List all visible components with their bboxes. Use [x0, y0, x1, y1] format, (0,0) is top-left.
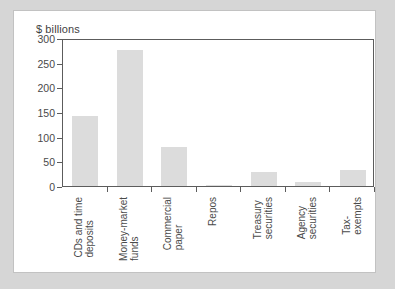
- x-axis-category-label: Tax- exempts: [341, 197, 363, 235]
- bar: [72, 116, 98, 186]
- x-axis-category-label: Agency securities: [296, 197, 318, 239]
- bar: [117, 50, 143, 186]
- x-axis-category-label: Treasury securities: [252, 197, 274, 239]
- bars-container: [63, 40, 373, 186]
- x-axis-category-label: Commercial paper: [162, 197, 184, 250]
- x-axis-category-label: Repos: [207, 197, 218, 226]
- bar: [206, 185, 232, 187]
- x-axis-tick-mark: [151, 187, 152, 192]
- x-axis-tick-mark: [285, 187, 286, 192]
- bar: [251, 172, 277, 186]
- x-axis-tick-mark: [196, 187, 197, 192]
- x-axis-category-label: Money-market funds: [118, 197, 140, 261]
- bar: [295, 182, 321, 186]
- x-axis-tick-mark: [107, 187, 108, 192]
- x-axis-tick-mark: [374, 187, 375, 192]
- bar: [340, 170, 366, 186]
- y-axis-tick-marks: [14, 39, 62, 187]
- bar: [161, 147, 187, 186]
- y-axis-tick-mark: [57, 187, 62, 188]
- x-axis-tick-mark: [329, 187, 330, 192]
- plot-area: [62, 39, 374, 187]
- x-axis-tick-mark: [240, 187, 241, 192]
- chart-figure: $ billions 050100150200250300 CDs and ti…: [13, 10, 376, 273]
- x-axis-category-label: CDs and time deposits: [73, 197, 95, 258]
